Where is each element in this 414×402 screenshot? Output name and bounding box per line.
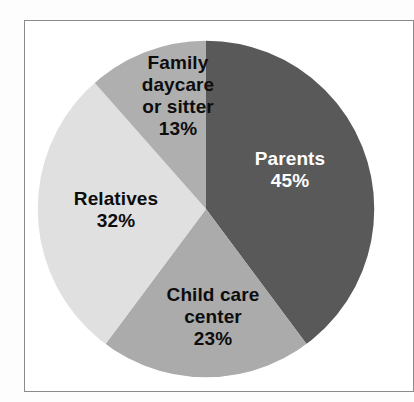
pie-label-parents-value: 45%	[238, 170, 342, 192]
pie-label-relatives-value: 32%	[58, 210, 174, 232]
pie-label-family-line3: or sitter	[130, 96, 226, 118]
pie-chart: Parents 45% Child care center 23% Relati…	[0, 0, 414, 402]
pie-label-relatives: Relatives 32%	[58, 188, 174, 232]
chart-figure: Parents 45% Child care center 23% Relati…	[0, 0, 414, 402]
pie-label-family-value: 13%	[130, 118, 226, 140]
pie-label-family-line1: Family	[130, 52, 226, 74]
pie-label-relatives-name: Relatives	[58, 188, 174, 210]
pie-label-child-care-center: Child care center 23%	[148, 284, 278, 350]
pie-label-child-care-center-value: 23%	[148, 328, 278, 350]
pie-label-parents: Parents 45%	[238, 148, 342, 192]
pie-label-child-care-center-name-line2: center	[148, 306, 278, 328]
pie-label-family-line2: daycare	[130, 74, 226, 96]
pie-label-parents-name: Parents	[238, 148, 342, 170]
pie-label-child-care-center-name-line1: Child care	[148, 284, 278, 306]
pie-label-family-daycare-or-sitter: Family daycare or sitter 13%	[130, 52, 226, 140]
